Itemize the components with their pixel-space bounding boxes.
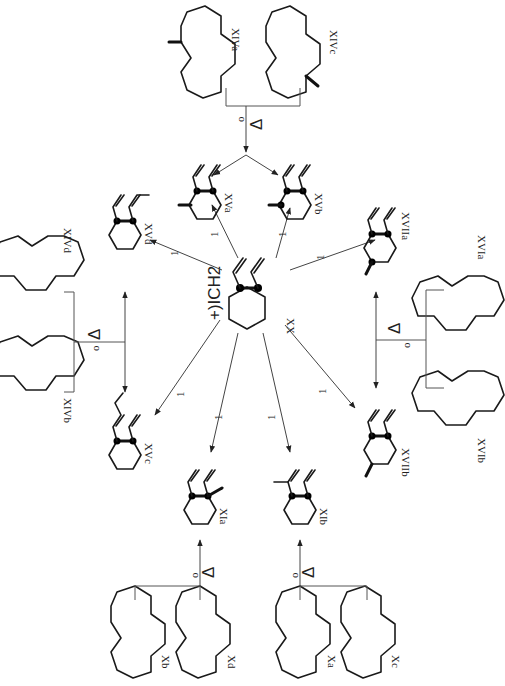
svg-text:1: 1 bbox=[314, 255, 326, 261]
compound-XVc: XVc bbox=[109, 393, 155, 469]
svg-text:XIa: XIa bbox=[218, 508, 230, 525]
svg-text:o: o bbox=[400, 342, 412, 348]
svg-text:XIb: XIb bbox=[318, 508, 330, 526]
compound-XIa: XIa bbox=[184, 470, 230, 525]
precursor-group-left: XIVd XIVb o Δ bbox=[0, 228, 125, 424]
svg-text:Xb: Xb bbox=[160, 655, 172, 669]
svg-text:XVIIa: XVIIa bbox=[400, 212, 412, 240]
svg-text:XIVa: XIVa bbox=[230, 28, 242, 51]
svg-text:1: 1 bbox=[212, 415, 224, 421]
svg-text:1: 1 bbox=[276, 232, 288, 238]
precursor-group-right: XVIa XVIb o Δ bbox=[376, 235, 504, 464]
svg-text:XVIa: XVIa bbox=[476, 235, 488, 260]
svg-text:1: 1 bbox=[265, 415, 277, 421]
compound-XVd: XVd bbox=[109, 195, 155, 249]
precursor-group-bottom-left: Xb Xd o Δ bbox=[111, 540, 238, 678]
svg-text:XVIb: XVIb bbox=[476, 438, 488, 464]
svg-text:1: 1 bbox=[174, 392, 186, 398]
svg-text:XIVd: XIVd bbox=[62, 228, 74, 254]
svg-text:XVd: XVd bbox=[143, 223, 155, 245]
heat-symbol: Δ bbox=[247, 119, 266, 130]
reaction-scheme: +)ICH2 XX 1 1 1 1 1 1 1 1 XVa bbox=[0, 0, 505, 686]
svg-text:1: 1 bbox=[168, 251, 180, 257]
reagent-label: +)ICH2 bbox=[205, 266, 224, 320]
svg-text:Δ: Δ bbox=[199, 567, 218, 578]
svg-text:Xc: Xc bbox=[390, 655, 402, 668]
compound-label: XVa bbox=[223, 193, 235, 213]
reaction-arrows: 1 1 1 1 1 1 1 1 bbox=[150, 205, 375, 452]
svg-text:XVb: XVb bbox=[313, 193, 325, 215]
compound-XVa: XVa bbox=[179, 165, 235, 219]
svg-text:1: 1 bbox=[316, 389, 328, 395]
svg-text:1: 1 bbox=[208, 232, 220, 238]
precursor-group-top: XIVa XIVc o Δ bbox=[169, 6, 340, 175]
precursor-group-bottom-right: Xa Xc o Δ bbox=[276, 540, 402, 678]
svg-text:XVc: XVc bbox=[143, 443, 155, 464]
svg-text:Δ: Δ bbox=[299, 567, 318, 578]
compound-XIb: XIb bbox=[274, 470, 330, 526]
svg-text:Δ: Δ bbox=[385, 323, 404, 334]
svg-text:o: o bbox=[234, 116, 246, 122]
svg-text:o: o bbox=[89, 345, 101, 351]
svg-text:XIVc: XIVc bbox=[328, 30, 340, 55]
svg-text:XVIIb: XVIIb bbox=[400, 448, 412, 477]
svg-text:XIVb: XIVb bbox=[62, 398, 74, 424]
compound-XVIIb: XVIIb bbox=[364, 410, 412, 477]
compound-XVb: XVb bbox=[269, 165, 325, 219]
svg-text:Xa: Xa bbox=[326, 655, 338, 668]
svg-text:Δ: Δ bbox=[85, 329, 104, 340]
svg-text:Xd: Xd bbox=[226, 655, 238, 669]
